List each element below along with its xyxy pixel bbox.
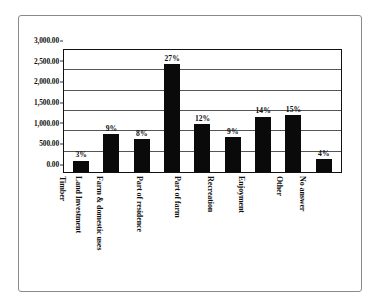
bar-slot: 4% [309, 50, 339, 172]
y-axis-tick-mark [60, 102, 63, 103]
bar: 15% [285, 115, 301, 172]
bar-value-label: 9% [106, 124, 117, 133]
y-axis-tick-mark [60, 81, 63, 82]
bar: 27% [164, 64, 180, 172]
y-axis-tick-label: 1,000.00 [34, 118, 59, 127]
bar-value-label: 15% [286, 105, 301, 114]
y-axis-tick-mark [60, 143, 63, 144]
bar: 8% [134, 139, 150, 172]
x-axis-category-labels: TimberLand InvestmentFarm & domestic use… [63, 174, 342, 286]
y-axis-tick-mark [60, 40, 63, 41]
bar-slot: 15% [278, 50, 308, 172]
bar: 3% [73, 161, 89, 172]
bar-slot: 8% [127, 50, 157, 172]
bar: 14% [255, 117, 271, 172]
bar-slot: 14% [248, 50, 278, 172]
chart-figure: 3%9%8%27%12%9%14%15%4% 0.00500.001,000.0… [18, 15, 362, 292]
x-axis-category-label: Part of farm [173, 176, 182, 217]
x-axis-category-label: Other [275, 176, 284, 196]
x-axis-category-label: No answer [298, 176, 307, 211]
bar-value-label: 14% [256, 106, 271, 115]
x-axis-category-label: Farm & domestic uses [95, 176, 104, 250]
bar: 9% [225, 137, 241, 172]
bar-value-label: 12% [195, 114, 210, 123]
bar: 4% [316, 159, 332, 172]
x-axis-category-label: Land Investment [73, 176, 82, 233]
y-axis-tick-label: 2,000.00 [34, 77, 59, 86]
bar-slot: 27% [157, 50, 187, 172]
bar: 12% [194, 124, 210, 172]
x-axis-category-label: Part of residence [135, 176, 144, 232]
x-axis-label-slot: No answer [310, 174, 341, 286]
y-axis-tick-mark [60, 61, 63, 62]
x-axis-category-label: Timber [59, 176, 68, 201]
x-axis-category-label: Recreation [206, 176, 215, 212]
y-axis-tick-label: 2,500.00 [34, 56, 59, 65]
plot-area: 3%9%8%27%12%9%14%15%4% [63, 49, 342, 173]
bar: 9% [103, 134, 119, 172]
bar-value-label: 3% [75, 150, 86, 159]
y-axis-tick-label: 0.00 [46, 160, 59, 169]
y-axis-tick-label: 500.00 [39, 139, 59, 148]
y-axis-tick-mark [60, 164, 63, 165]
y-axis-tick-label: 3,000.00 [34, 36, 59, 45]
bar-value-label: 9% [227, 127, 238, 136]
bar-value-label: 8% [136, 129, 147, 138]
y-axis-tick-mark [60, 123, 63, 124]
y-axis-tick-label: 1,500.00 [34, 98, 59, 107]
bar-slot: 3% [66, 50, 96, 172]
x-axis-category-label: Enjoyment [236, 176, 245, 213]
bar-series: 3%9%8%27%12%9%14%15%4% [64, 50, 341, 172]
bar-slot: 9% [96, 50, 126, 172]
bar-slot: 12% [187, 50, 217, 172]
x-axis-label-slot: Part of residence [157, 174, 188, 286]
bar-value-label: 4% [318, 149, 329, 158]
bar-value-label: 27% [165, 54, 180, 63]
plot-wrapper: 3%9%8%27%12%9%14%15%4% 0.00500.001,000.0… [63, 49, 342, 173]
bar-slot: 9% [218, 50, 248, 172]
